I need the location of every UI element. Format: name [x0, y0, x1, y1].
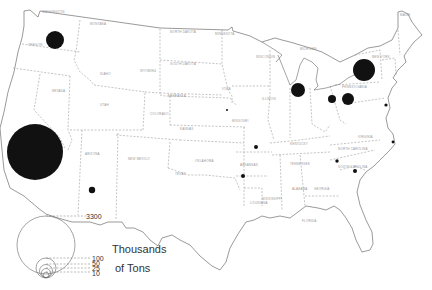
state-label: OKLAHOMA [195, 159, 214, 163]
state-label: ARKANSAS [240, 163, 258, 167]
symbol-illinois-indiana [291, 83, 305, 97]
legend-circle-3300 [17, 216, 75, 274]
state-label: LOUISIANA [250, 201, 268, 205]
state-label: WYOMING [140, 69, 157, 73]
symbol-arkansas [241, 174, 245, 178]
state-label: TENNESSEE [290, 162, 310, 166]
symbol-arizona [89, 187, 95, 193]
symbol-virginia [335, 159, 338, 162]
symbol-california [7, 124, 63, 180]
state-label: MINNESOTA [215, 32, 234, 36]
state-label: MONTANA [90, 22, 106, 26]
state-label: UTAH [100, 103, 109, 107]
state-label: ILLINOIS [262, 97, 276, 101]
us-map: WASHINGTONOREGONMONTANAIDAHOWYOMINGNEVAD… [0, 0, 432, 290]
state-label: NEVADA [52, 89, 65, 93]
state-borders [13, 20, 400, 220]
legend-circle-50 [40, 265, 53, 278]
state-label: MAINE [400, 13, 411, 17]
legend-unit-line2: of Tons [112, 259, 166, 278]
state-labels: WASHINGTONOREGONMONTANAIDAHOWYOMINGNEVAD… [28, 10, 411, 223]
state-label: NEW MEXICO [128, 157, 150, 161]
symbol-ohio [328, 95, 336, 103]
state-label: KANSAS [180, 127, 193, 131]
state-label: GEORGIA [314, 187, 329, 191]
legend-circle-10 [43, 272, 49, 278]
proportional-circles [7, 31, 394, 193]
state-label: ALABAMA [292, 187, 308, 191]
us-outline [0, 10, 422, 270]
state-label: FLORIDA [302, 219, 316, 223]
legend-value-3300: 3300 [86, 213, 102, 220]
state-label: IDAHO [100, 72, 111, 76]
symbol-new-jersey [384, 103, 387, 106]
state-label: SOUTH DAKOTA [170, 62, 196, 66]
state-label: KENTUCKY [290, 142, 308, 146]
state-label: WISCONSIN [256, 55, 275, 59]
state-label: IOWA [222, 87, 231, 91]
symbol-pennsylvania [342, 93, 354, 105]
symbol-new-york [353, 59, 375, 81]
state-label: PENNSYLVANIA [342, 85, 367, 89]
symbol-iowa [226, 109, 228, 111]
state-label: ARIZONA [85, 152, 100, 156]
state-label: NORTH CAROLINA [338, 147, 368, 151]
state-label: NORTH DAKOTA [170, 30, 196, 34]
state-label: MISSISSIPPI [262, 197, 282, 201]
state-label: MISSOURI [232, 119, 248, 123]
state-label: OREGON [28, 43, 43, 47]
state-label: WASHINGTON [42, 10, 65, 14]
symbol-washington [46, 31, 64, 49]
state-label: NEBRASKA [168, 94, 186, 98]
symbol-south-carolina [353, 169, 357, 173]
state-label: MICHIGAN [300, 47, 317, 51]
state-label: VIRGINIA [358, 135, 373, 139]
symbol-missouri [254, 145, 258, 149]
legend-graphic: 3300 100 50 25 10 [17, 213, 104, 278]
legend-unit-line1: Thousands [112, 240, 166, 259]
state-label: COLORADO [150, 112, 169, 116]
legend-circle-25 [42, 269, 51, 278]
legend-unit-label: Thousands of Tons [112, 240, 166, 278]
symbol-north-carolina-coast [392, 141, 395, 144]
state-label: TEXAS [175, 172, 186, 176]
legend-value-10: 10 [92, 270, 100, 277]
state-label: SOUTH CAROLINA [338, 165, 367, 169]
state-label: NEW YORK [372, 55, 390, 59]
